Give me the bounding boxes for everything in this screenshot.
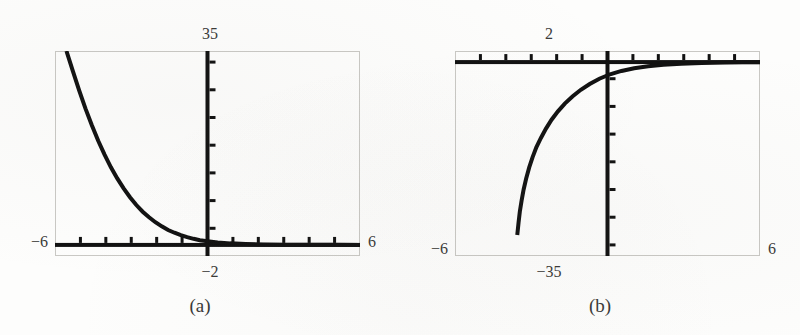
axis-label-right-a: 6 <box>368 234 376 250</box>
y-tick-a <box>210 199 216 202</box>
y-tick-b <box>610 133 616 136</box>
x-tick-a <box>282 237 285 243</box>
axis-label-top-b: 2 <box>545 26 553 42</box>
x-tick-a <box>155 237 158 243</box>
axis-label-bottom-a: −2 <box>201 264 218 280</box>
y-tick-a <box>210 116 216 119</box>
y-tick-a <box>210 144 216 147</box>
x-tick-b <box>504 54 507 60</box>
x-tick-b <box>530 54 533 60</box>
plot-panel-b: 2 −35 −6 6 (b) <box>400 0 800 335</box>
x-tick-b <box>682 54 685 60</box>
figure-page: 35 −2 −6 6 (a) 2 −35 −6 6 (b) <box>0 0 800 335</box>
axis-label-bottom-b: −35 <box>536 264 561 280</box>
axis-label-right-b: 6 <box>768 241 776 257</box>
x-tick-b <box>631 54 634 60</box>
axis-label-top-a: 35 <box>202 26 218 42</box>
x-tick-a <box>130 237 133 243</box>
plot-canvas-b <box>455 51 760 256</box>
y-tick-b <box>610 216 616 219</box>
x-tick-b <box>733 54 736 60</box>
curve-a <box>66 51 360 245</box>
x-tick-a <box>257 237 260 243</box>
curve-b <box>517 62 760 235</box>
axis-label-left-b: −6 <box>431 241 448 257</box>
y-axis-line-a <box>206 51 210 256</box>
y-axis-line-b <box>606 51 610 256</box>
axis-label-left-a: −6 <box>31 234 48 250</box>
x-tick-a <box>104 237 107 243</box>
x-tick-b <box>555 54 558 60</box>
y-tick-b <box>610 188 616 191</box>
panel-caption-b: (b) <box>589 296 611 315</box>
x-tick-b <box>708 54 711 60</box>
y-tick-b <box>610 77 616 80</box>
y-tick-a <box>210 171 216 174</box>
y-tick-a <box>210 88 216 91</box>
x-tick-b <box>657 54 660 60</box>
x-tick-a <box>79 237 82 243</box>
plot-canvas-a <box>55 51 360 256</box>
x-tick-b <box>606 54 609 60</box>
y-tick-b <box>610 160 616 163</box>
x-tick-b <box>479 54 482 60</box>
y-tick-a <box>210 61 216 64</box>
panel-caption-a: (a) <box>189 296 210 315</box>
y-tick-b <box>610 243 616 246</box>
x-tick-b <box>581 54 584 60</box>
x-tick-a <box>308 237 311 243</box>
plot-panel-a: 35 −2 −6 6 (a) <box>0 0 400 335</box>
y-tick-a <box>210 227 216 230</box>
y-tick-b <box>610 105 616 108</box>
x-tick-a <box>333 237 336 243</box>
